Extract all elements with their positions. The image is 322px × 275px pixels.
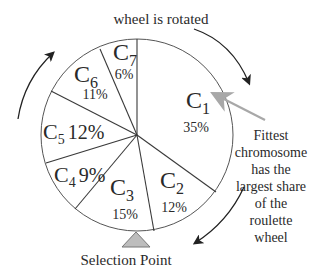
svg-text:Fittest: Fittest — [253, 128, 288, 143]
segment-c5: C512% — [43, 119, 104, 147]
svg-text:15%: 15% — [112, 207, 138, 222]
selection-point-label: Selection Point — [80, 252, 172, 268]
segment-c4: C49% — [54, 162, 105, 190]
fittest-annotation: Fittest chromosome has the largest share… — [235, 128, 307, 245]
svg-text:35%: 35% — [183, 120, 209, 135]
selection-pointer-icon — [122, 232, 150, 247]
svg-text:has the: has the — [251, 162, 290, 177]
svg-text:chromosome: chromosome — [235, 145, 307, 160]
svg-text:12%: 12% — [161, 200, 187, 215]
roulette-wheel-diagram: wheel is rotated C1 35% C2 12% C3 15% C4… — [0, 0, 322, 275]
svg-text:6%: 6% — [115, 67, 134, 82]
svg-text:of the: of the — [255, 196, 287, 211]
svg-text:11%: 11% — [82, 87, 107, 102]
svg-text:roulette: roulette — [250, 213, 293, 228]
svg-text:C512%: C512% — [43, 119, 104, 147]
svg-text:wheel: wheel — [254, 230, 288, 245]
svg-text:C49%: C49% — [54, 162, 105, 190]
title-label: wheel is rotated — [114, 11, 209, 27]
svg-text:largest share: largest share — [236, 179, 306, 194]
